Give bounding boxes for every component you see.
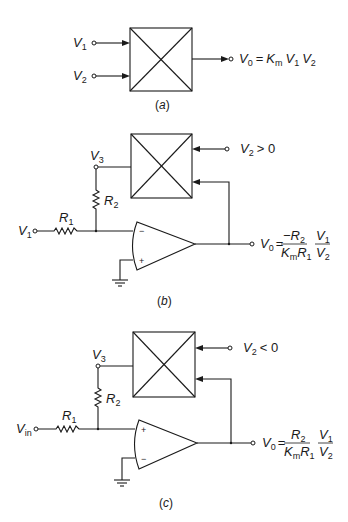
caption-c: (c) — [159, 496, 173, 510]
output-equation-c: V0= R2 KmR1 V1 V2 — [262, 427, 333, 461]
terminal-icon — [228, 346, 232, 350]
svg-text:Vin: Vin — [16, 421, 32, 438]
panel-a: V1 V2 V0=KmV1V2 (a) — [73, 28, 316, 112]
svg-text:V3: V3 — [90, 148, 104, 165]
terminal-icon — [34, 427, 38, 431]
ground-icon — [114, 480, 130, 486]
svg-text:V3: V3 — [92, 347, 106, 364]
terminal-icon — [250, 242, 254, 246]
arrow-icon — [192, 146, 200, 152]
svg-text:V1: V1 — [316, 228, 330, 245]
output-b: V0= −R2 KmR1 V1 V2 — [195, 228, 330, 262]
arrow-icon — [195, 376, 203, 382]
feedback-line-b — [192, 179, 229, 244]
ground-icon — [112, 280, 128, 286]
terminal-icon — [229, 57, 233, 61]
multiplier-block-b — [131, 134, 192, 198]
output-equation-a: V0=KmV1V2 — [239, 51, 316, 68]
terminal-icon — [92, 41, 96, 45]
input-v2-b: V2> 0 — [192, 141, 275, 158]
svg-text:+: + — [141, 425, 146, 435]
panel-c: V2< 0 V3 R2 Vin R1 + − — [16, 332, 333, 510]
input-v2-a: V2 — [73, 68, 130, 85]
svg-text:KmR1: KmR1 — [281, 245, 312, 262]
terminal-icon — [94, 165, 98, 169]
arrow-icon — [221, 56, 229, 62]
terminal-icon — [92, 74, 96, 78]
svg-text:−R2: −R2 — [283, 228, 305, 245]
feedback-line-c — [195, 376, 231, 443]
svg-text:−: − — [141, 454, 146, 464]
svg-text:R1: R1 — [62, 408, 76, 425]
resistor-r2-c: R2 — [95, 368, 120, 429]
svg-text:KmR1: KmR1 — [284, 444, 315, 461]
svg-text:R2: R2 — [291, 427, 305, 444]
svg-text:V1: V1 — [319, 427, 333, 444]
input-vin-c: Vin R1 — [16, 408, 135, 438]
terminal-icon — [225, 147, 229, 151]
svg-text:V2: V2 — [73, 68, 87, 85]
terminal-icon — [96, 364, 100, 368]
svg-text:R2: R2 — [104, 193, 118, 210]
arrow-icon — [195, 345, 203, 351]
svg-text:V1: V1 — [73, 35, 87, 52]
svg-text:+: + — [139, 256, 144, 266]
svg-text:V2< 0: V2< 0 — [243, 340, 278, 357]
input-v2-c: V2< 0 — [195, 340, 278, 357]
svg-text:R1: R1 — [59, 210, 73, 227]
arrow-icon — [192, 179, 200, 185]
panel-b: V2> 0 V3 R2 V1 R1 − + — [18, 134, 330, 308]
svg-text:V2> 0: V2> 0 — [240, 141, 275, 158]
opamp-c: + − — [114, 420, 197, 486]
svg-text:V0=: V0= — [260, 236, 283, 253]
circuit-diagram: V1 V2 V0=KmV1V2 (a) V2> 0 — [0, 0, 348, 522]
svg-text:V2: V2 — [319, 444, 333, 461]
input-v1-a: V1 — [73, 35, 130, 52]
arrow-icon — [122, 73, 130, 79]
opamp-b: − + — [112, 222, 195, 286]
terminal-icon — [251, 441, 255, 445]
output-a: V0=KmV1V2 — [192, 51, 316, 68]
output-equation-b: V0= −R2 KmR1 V1 V2 — [260, 228, 330, 262]
node-v3-b: V3 — [90, 148, 131, 169]
caption-a: (a) — [155, 98, 170, 112]
output-c: V0= R2 KmR1 V1 V2 — [197, 427, 333, 461]
multiplier-block-a — [130, 28, 192, 91]
svg-text:V2: V2 — [316, 245, 330, 262]
arrow-icon — [122, 40, 130, 46]
input-v1-b: V1 R1 — [18, 210, 133, 240]
svg-text:−: − — [139, 226, 144, 236]
svg-text:V0=: V0= — [262, 435, 285, 452]
node-v3-c: V3 — [92, 347, 133, 368]
caption-b: (b) — [157, 294, 172, 308]
svg-text:V1: V1 — [18, 223, 32, 240]
resistor-r2-b: R2 — [93, 169, 118, 231]
terminal-icon — [33, 229, 37, 233]
svg-text:R2: R2 — [106, 391, 120, 408]
multiplier-block-c — [133, 332, 195, 397]
